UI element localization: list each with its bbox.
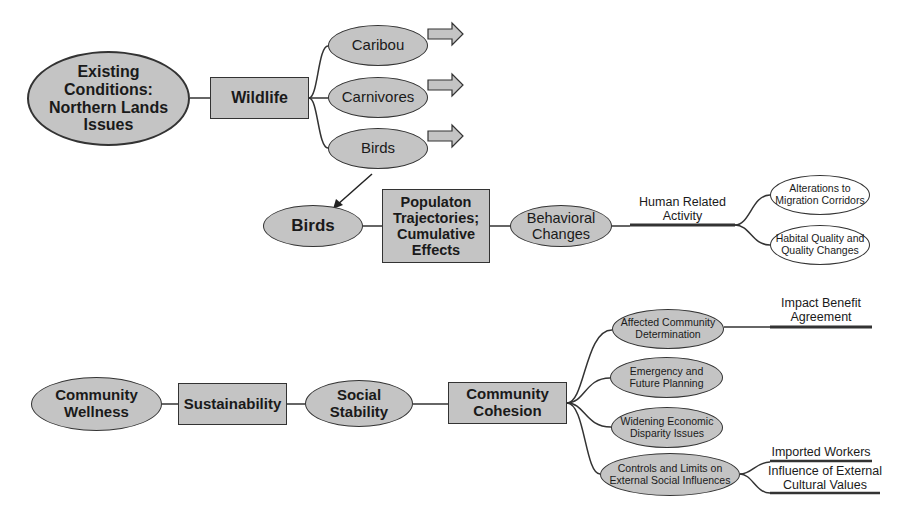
behavioral-changes-node: Behavioral Changes: [510, 205, 612, 247]
carnivores-node: Carnivores: [328, 77, 428, 118]
root-node-existing-conditions: Existing Conditions: Northern Lands Issu…: [27, 51, 190, 146]
right-block-arrow-icon: [428, 23, 463, 45]
habitat-quality-node: Habital Quality and Quality Changes: [770, 225, 870, 265]
community-cohesion-node: Community Cohesion: [448, 382, 567, 424]
external-influences-node: Controls and Limits on External Social I…: [600, 453, 740, 496]
population-trajectories-node: Populaton Trajectories; Cumulative Effec…: [382, 189, 490, 263]
social-stability-node: Social Stability: [305, 380, 413, 427]
human-related-activity-label: Human Related Activity: [630, 195, 735, 224]
caribou-node: Caribou: [328, 25, 428, 66]
sustainability-node: Sustainability: [178, 383, 287, 425]
community-wellness-node: Community Wellness: [31, 377, 162, 431]
right-block-arrow-icon: [428, 125, 463, 147]
wildlife-node: Wildlife: [210, 77, 309, 119]
external-cultural-values-label: Influence of External Cultural Values: [762, 464, 888, 493]
impact-benefit-label: Impact Benefit Agreement: [770, 296, 872, 325]
birds-branch-node: Birds: [328, 128, 428, 169]
right-block-arrow-icon: [428, 74, 463, 96]
economic-disparity-node: Widening Economic Disparity Issues: [611, 407, 723, 448]
affected-community-node: Affected Community Determination: [612, 309, 724, 349]
emergency-planning-node: Emergency and Future Planning: [610, 357, 723, 398]
migration-corridors-node: Alterations to Migration Corridors: [770, 175, 870, 215]
imported-workers-label: Imported Workers: [766, 445, 876, 459]
down-arrow-icon: [333, 174, 372, 209]
birds-node: Birds: [263, 205, 363, 247]
